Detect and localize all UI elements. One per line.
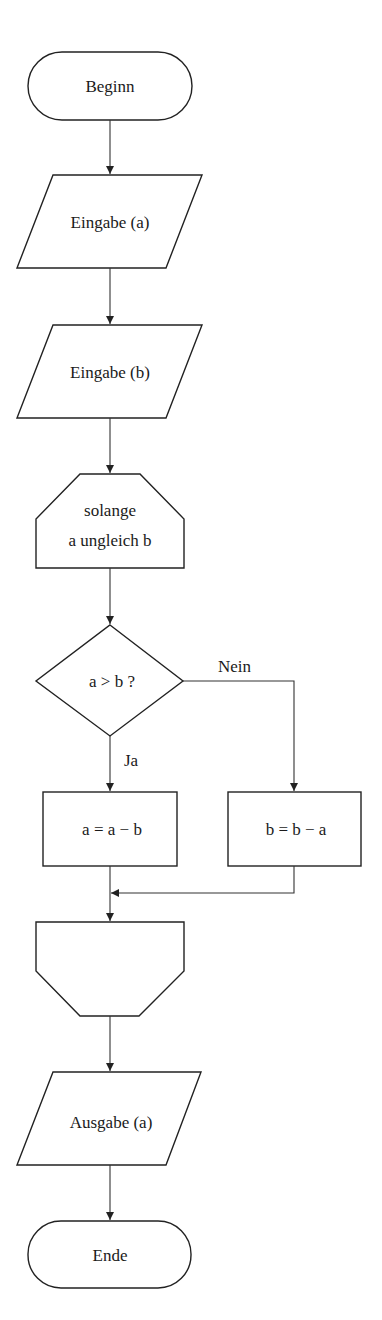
- loop-condition-line2: a ungleich b: [68, 531, 151, 550]
- assign-b-label: b = b − a: [266, 820, 327, 839]
- end-terminator: Ende: [28, 1221, 191, 1288]
- input-a-parallelogram: Eingabe (a): [17, 175, 202, 268]
- start-terminator: Beginn: [28, 52, 192, 120]
- loop-end-shape: [36, 922, 184, 1016]
- output-parallelogram: Ausgabe (a): [17, 1072, 201, 1165]
- arrow-merge: [111, 866, 294, 893]
- input-a-label: Eingabe (a): [71, 213, 150, 232]
- flowchart: Beginn Eingabe (a) Eingabe (b) solange a…: [0, 0, 382, 1320]
- assign-b-box: b = b − a: [228, 792, 361, 866]
- loop-start-shape: solange a ungleich b: [36, 474, 184, 568]
- arrow-no-branch: [183, 681, 294, 791]
- loop-condition-line1: solange: [84, 501, 136, 520]
- assign-a-label: a = a − b: [82, 820, 142, 839]
- no-label: Nein: [218, 657, 252, 676]
- start-label: Beginn: [85, 77, 135, 96]
- decision-diamond: a > b ?: [36, 625, 183, 736]
- assign-a-box: a = a − b: [43, 792, 177, 866]
- end-label: Ende: [93, 1246, 128, 1265]
- output-label: Ausgabe (a): [70, 1113, 153, 1132]
- decision-label: a > b ?: [89, 672, 135, 691]
- input-b-parallelogram: Eingabe (b): [17, 325, 202, 418]
- yes-label: Ja: [124, 751, 139, 770]
- input-b-label: Eingabe (b): [70, 363, 150, 382]
